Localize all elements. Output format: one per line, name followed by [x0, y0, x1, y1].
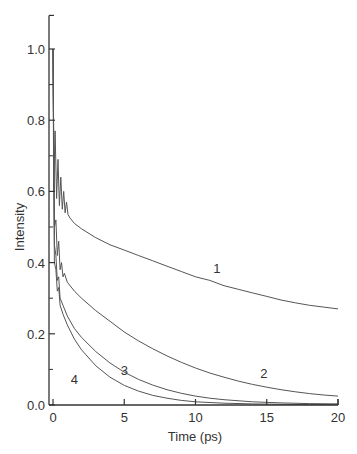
curve-label-2: 2	[260, 366, 267, 381]
x-tick-label: 15	[260, 410, 274, 425]
x-tick-label: 0	[49, 410, 56, 425]
curve-label-3: 3	[121, 363, 128, 378]
y-tick-label: 0.6	[27, 184, 45, 199]
x-tick-label: 20	[331, 410, 345, 425]
y-axis-title: Intensity	[12, 202, 27, 251]
curve-3	[53, 49, 338, 404]
x-axis-title: Time (ps)	[168, 429, 222, 444]
curve-labels: 1234	[71, 261, 268, 386]
y-tick-label: 0.8	[27, 113, 45, 128]
x-tick-label: 10	[188, 410, 202, 425]
curve-label-1: 1	[213, 261, 220, 276]
x-tick-label: 5	[121, 410, 128, 425]
curve-1	[53, 49, 338, 309]
tick-labels: 0.00.20.40.60.81.005101520	[27, 42, 345, 425]
curve-label-4: 4	[71, 372, 78, 387]
curve-2	[53, 49, 338, 396]
y-tick-label: 0.0	[27, 398, 45, 413]
axes	[49, 15, 338, 405]
y-tick-label: 0.2	[27, 327, 45, 342]
y-tick-label: 1.0	[27, 42, 45, 57]
plot-lines	[53, 49, 338, 405]
intensity-decay-chart: 0.00.20.40.60.81.005101520 1234 Time (ps…	[0, 0, 357, 454]
y-tick-label: 0.4	[27, 256, 45, 271]
